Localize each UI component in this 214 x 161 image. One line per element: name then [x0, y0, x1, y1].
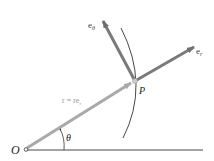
unit-theta-label: eθ [88, 20, 95, 31]
angle-label: θ [66, 132, 71, 143]
unit-r-label: er [196, 46, 203, 57]
unit-vector-er [135, 47, 194, 81]
origin-marker [24, 148, 28, 152]
point-p-marker [133, 79, 138, 84]
origin-label: O [11, 143, 20, 157]
point-label: P [138, 85, 145, 96]
polar-coordinates-diagram: O P θ r = rer er eθ [0, 0, 214, 161]
position-vector [27, 83, 131, 148]
angle-arc [60, 129, 64, 150]
position-vector-label: r = rer [62, 96, 81, 106]
